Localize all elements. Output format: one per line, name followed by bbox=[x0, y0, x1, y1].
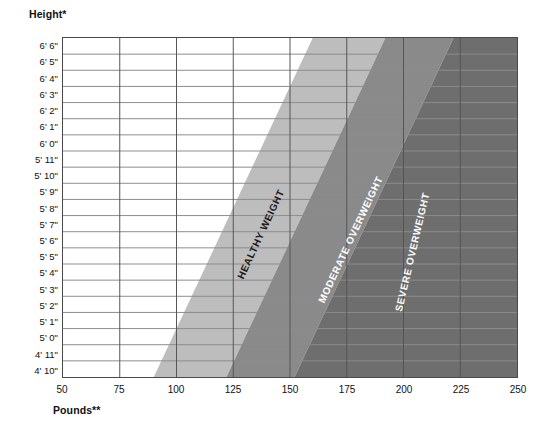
x-axis-tick-label: 100 bbox=[156, 384, 196, 395]
y-axis-tick-label: 5' 9" bbox=[2, 186, 58, 197]
x-axis-tick-label: 125 bbox=[213, 384, 253, 395]
grid-lines bbox=[63, 38, 517, 377]
y-axis-tick-label: 5' 5" bbox=[2, 251, 58, 262]
y-axis-tick-label: 5' 11" bbox=[2, 153, 58, 164]
y-axis-tick-label: 5' 8" bbox=[2, 202, 58, 213]
y-axis-tick-label: 5' 1" bbox=[2, 316, 58, 327]
height-axis-title: Height* bbox=[29, 8, 66, 20]
x-axis-tick-label: 175 bbox=[327, 384, 367, 395]
y-axis-tick-labels: 6' 6"6' 5"6' 4"6' 3"6' 2"6' 1"6' 0"5' 11… bbox=[0, 37, 58, 378]
x-axis-tick-label: 150 bbox=[270, 384, 310, 395]
plot-area: HEALTHY WEIGHTMODERATE OVERWEIGHTSEVERE … bbox=[62, 37, 518, 378]
y-axis-tick-label: 5' 6" bbox=[2, 234, 58, 245]
x-axis-tick-label: 200 bbox=[384, 384, 424, 395]
y-axis-tick-label: 6' 3" bbox=[2, 88, 58, 99]
y-axis-tick-label: 5' 4" bbox=[2, 267, 58, 278]
y-axis-tick-label: 5' 7" bbox=[2, 218, 58, 229]
y-axis-tick-label: 6' 6" bbox=[2, 40, 58, 51]
y-axis-tick-label: 6' 5" bbox=[2, 56, 58, 67]
y-axis-tick-label: 6' 2" bbox=[2, 105, 58, 116]
x-axis-tick-labels: 5075100125150175200225250 bbox=[62, 384, 518, 400]
y-axis-tick-label: 4' 11" bbox=[2, 348, 58, 359]
y-axis-tick-label: 5' 3" bbox=[2, 283, 58, 294]
y-axis-tick-label: 5' 0" bbox=[2, 332, 58, 343]
y-axis-tick-label: 5' 10" bbox=[2, 170, 58, 181]
x-axis-tick-label: 250 bbox=[498, 384, 536, 395]
weight-axis-title: Pounds** bbox=[53, 404, 100, 416]
y-axis-tick-label: 6' 1" bbox=[2, 121, 58, 132]
x-axis-tick-label: 50 bbox=[42, 384, 82, 395]
y-axis-tick-label: 6' 0" bbox=[2, 137, 58, 148]
y-axis-tick-label: 4' 10" bbox=[2, 364, 58, 375]
x-axis-tick-label: 75 bbox=[99, 384, 139, 395]
bmi-chart: Height* 6' 6"6' 5"6' 4"6' 3"6' 2"6' 1"6'… bbox=[0, 0, 536, 428]
x-axis-tick-label: 225 bbox=[441, 384, 481, 395]
y-axis-tick-label: 5' 2" bbox=[2, 299, 58, 310]
y-axis-tick-label: 6' 4" bbox=[2, 72, 58, 83]
